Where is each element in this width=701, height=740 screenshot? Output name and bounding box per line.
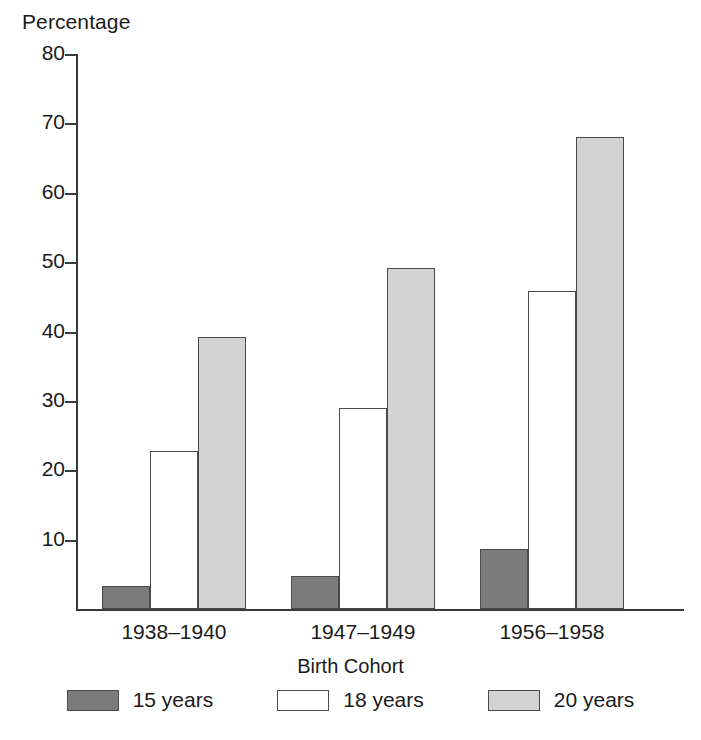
y-tick-mark	[65, 332, 76, 334]
y-tick-label: 20	[42, 457, 65, 481]
y-tick-label: 80	[42, 41, 65, 65]
bar-group	[480, 54, 624, 609]
bar-15-years-1947–1949[interactable]	[291, 576, 339, 609]
legend-item-15-years[interactable]: 15 years	[67, 688, 214, 712]
y-tick-mark	[65, 401, 76, 403]
bar-20-years-1956–1958[interactable]	[576, 137, 624, 609]
bar-20-years-1947–1949[interactable]	[387, 268, 435, 609]
y-tick-label: 60	[42, 180, 65, 204]
bar-group	[291, 54, 435, 609]
bar-15-years-1956–1958[interactable]	[480, 549, 528, 609]
y-tick-mark	[65, 123, 76, 125]
y-tick-label: 30	[42, 388, 65, 412]
bar-chart-figure: Percentage 1020304050607080 1938–1940194…	[0, 0, 701, 740]
chart-legend: 15 years18 years20 years	[0, 688, 701, 712]
bar-group	[102, 54, 246, 609]
legend-label: 15 years	[133, 688, 214, 712]
y-tick-label: 70	[42, 110, 65, 134]
x-category-label: 1938–1940	[82, 620, 266, 644]
x-axis-line	[76, 609, 684, 611]
legend-label: 18 years	[343, 688, 424, 712]
legend-label: 20 years	[554, 688, 635, 712]
bar-18-years-1938–1940[interactable]	[150, 451, 198, 609]
legend-swatch-icon	[67, 690, 119, 711]
x-axis-title: Birth Cohort	[0, 655, 701, 678]
y-tick-mark	[65, 262, 76, 264]
x-category-label: 1956–1958	[460, 620, 644, 644]
y-tick-mark	[65, 54, 76, 56]
bar-15-years-1938–1940[interactable]	[102, 586, 150, 609]
x-category-label: 1947–1949	[271, 620, 455, 644]
y-tick-mark	[65, 193, 76, 195]
y-axis-title: Percentage	[22, 10, 130, 34]
y-tick-label: 40	[42, 319, 65, 343]
legend-swatch-icon	[277, 690, 329, 711]
legend-item-18-years[interactable]: 18 years	[277, 688, 424, 712]
bar-18-years-1947–1949[interactable]	[339, 408, 387, 609]
plot-area: 1020304050607080	[76, 54, 684, 609]
bar-20-years-1938–1940[interactable]	[198, 337, 246, 609]
y-tick-label: 10	[42, 527, 65, 551]
legend-item-20-years[interactable]: 20 years	[488, 688, 635, 712]
y-tick-mark	[65, 540, 76, 542]
y-tick-label: 50	[42, 249, 65, 273]
y-axis-line	[76, 54, 78, 610]
legend-swatch-icon	[488, 690, 540, 711]
bar-18-years-1956–1958[interactable]	[528, 291, 576, 609]
y-tick-mark	[65, 470, 76, 472]
